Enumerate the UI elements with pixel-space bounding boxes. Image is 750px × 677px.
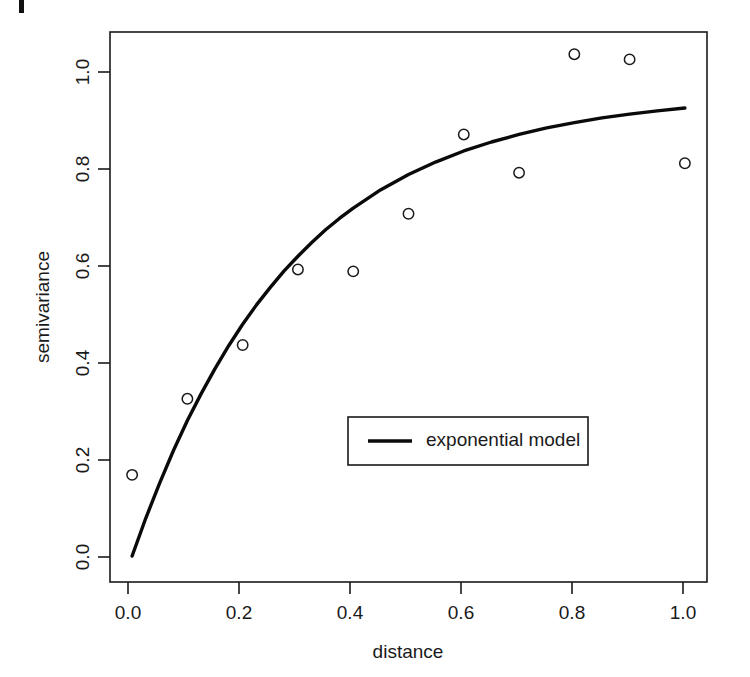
data-point: [569, 49, 579, 59]
x-tick-label: 0.4: [337, 602, 364, 623]
data-point: [237, 340, 247, 350]
data-point: [459, 129, 469, 139]
data-point: [514, 167, 524, 177]
y-tick-label: 0.8: [72, 156, 93, 182]
x-tick-label: 0.8: [559, 602, 585, 623]
y-axis-tick-labels: 0.0 0.2 0.4 0.6 0.8 1.0: [72, 59, 93, 570]
y-tick-label: 0.6: [72, 253, 93, 279]
x-tick-label: 0.0: [115, 602, 141, 623]
data-point: [624, 54, 634, 64]
data-point: [182, 394, 192, 404]
y-tick-label: 1.0: [72, 59, 93, 85]
plot-canvas: 0.0 0.2 0.4 0.6 0.8 1.0 0.0 0.2 0.4 0.6 …: [0, 0, 750, 677]
x-tick-label: 1.0: [670, 602, 696, 623]
data-point-group: [127, 49, 690, 480]
page-edge-mark: [19, 0, 24, 13]
variogram-figure: 0.0 0.2 0.4 0.6 0.8 1.0 0.0 0.2 0.4 0.6 …: [0, 0, 750, 677]
data-point: [293, 264, 303, 274]
x-axis-title: distance: [373, 641, 444, 662]
x-tick-label: 0.2: [226, 602, 252, 623]
exponential-model-curve: [132, 108, 685, 556]
legend: exponential model: [348, 417, 588, 465]
data-point: [127, 470, 137, 480]
data-point: [348, 266, 358, 276]
y-axis-title: semivariance: [32, 251, 53, 363]
y-tick-label: 0.0: [72, 544, 93, 570]
data-point: [680, 158, 690, 168]
x-axis-ticks: [128, 582, 683, 594]
y-tick-label: 0.2: [72, 447, 93, 473]
y-tick-label: 0.4: [72, 349, 93, 376]
y-axis-ticks: [98, 72, 110, 557]
x-tick-label: 0.6: [448, 602, 474, 623]
legend-label: exponential model: [426, 429, 580, 450]
x-axis-tick-labels: 0.0 0.2 0.4 0.6 0.8 1.0: [115, 602, 696, 623]
data-point: [403, 209, 413, 219]
